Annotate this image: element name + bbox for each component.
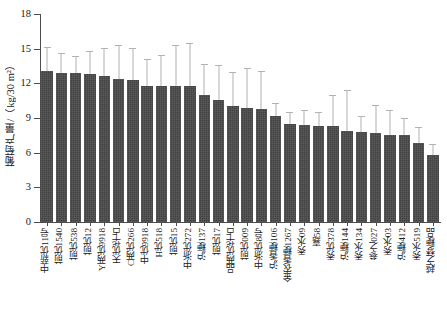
error-bar-cap — [158, 55, 165, 56]
error-bar-cap — [358, 116, 365, 117]
bar — [299, 125, 310, 222]
bar — [156, 86, 167, 222]
x-axis-tick-label: 品两优华占 — [227, 228, 241, 273]
error-bar-cap — [144, 59, 151, 60]
x-axis-tick-label: 参之027 — [370, 228, 384, 260]
y-axis-tick: 9 — [34, 118, 40, 119]
bar — [384, 135, 395, 222]
bar-group — [256, 14, 267, 222]
bar-group — [241, 14, 252, 222]
bar — [213, 100, 224, 222]
bar — [99, 76, 110, 222]
error-bar-cap — [386, 110, 393, 111]
bar-group — [113, 14, 124, 222]
x-axis-line — [40, 222, 441, 223]
bar-group — [313, 14, 324, 222]
x-axis-tick-label: 秀水03 — [384, 228, 398, 255]
error-bar-cap — [229, 72, 236, 73]
error-bar — [332, 96, 333, 126]
bar — [327, 126, 338, 222]
x-axis-tick — [247, 222, 248, 226]
error-bar — [261, 72, 262, 109]
x-axis-tick — [361, 222, 362, 226]
y-axis-title-text: 葡萄产量/（kg/30 m²） — [3, 59, 18, 166]
bar-group — [184, 14, 195, 222]
x-axis-tick-label: 前优12 — [84, 228, 98, 255]
error-bar-cap — [186, 43, 193, 44]
bar-group — [141, 14, 152, 222]
bar-group — [213, 14, 224, 222]
bar — [170, 86, 181, 222]
error-bar — [175, 46, 176, 85]
error-bar — [218, 66, 219, 100]
bar — [270, 116, 281, 222]
x-axis-tick-label: 秀水09 — [298, 228, 312, 255]
y-axis-tick: 12 — [34, 83, 40, 84]
y-axis-tick-label: 3 — [26, 180, 34, 193]
bar-group — [413, 14, 424, 222]
error-bar-cap — [44, 47, 51, 48]
error-bar-cap — [344, 90, 351, 91]
error-bar — [404, 119, 405, 135]
bar-group — [70, 14, 81, 222]
bar — [56, 73, 67, 222]
x-axis-tick — [390, 222, 391, 226]
bar-group — [370, 14, 381, 222]
bar — [141, 86, 152, 222]
x-axis-tick — [276, 222, 277, 226]
error-bar-cap — [301, 110, 308, 111]
x-axis-tick-label: 前优17 — [213, 228, 227, 255]
error-bar — [204, 65, 205, 95]
bar — [427, 155, 438, 222]
x-axis-tick — [219, 222, 220, 226]
x-axis-tick — [304, 222, 305, 226]
error-bar-cap — [115, 45, 122, 46]
bar — [127, 80, 138, 222]
x-axis-tick — [290, 222, 291, 226]
x-axis-tick — [147, 222, 148, 226]
x-axis-tick — [176, 222, 177, 226]
y-axis-tick: 0 — [34, 222, 40, 223]
bar-group — [56, 14, 67, 222]
bar — [256, 109, 267, 222]
bar — [341, 131, 352, 222]
error-bar-cap — [286, 112, 293, 113]
bar — [70, 73, 81, 222]
error-bar-cap — [86, 51, 93, 52]
y-axis-tick: 3 — [34, 187, 40, 188]
error-bar — [289, 113, 290, 123]
bar-group — [84, 14, 95, 222]
bar-group — [270, 14, 281, 222]
bar — [41, 71, 52, 222]
bar — [370, 133, 381, 222]
error-bar-cap — [258, 71, 265, 72]
error-bar — [118, 46, 119, 78]
y-axis-tick-label: 9 — [26, 111, 34, 124]
error-bar — [47, 48, 48, 71]
x-axis-tick-label: 中浙优272 — [184, 228, 198, 269]
error-bar-cap — [272, 103, 279, 104]
y-axis-tick-label: 6 — [26, 146, 34, 159]
x-axis-tick-label: 秀水134 — [355, 228, 369, 260]
y-axis-tick-label: 18 — [21, 7, 35, 20]
x-axis-tick-label: 沪粳412 — [398, 228, 412, 260]
x-axis-tick-label: 中浙优8号 — [255, 228, 269, 269]
bar — [284, 124, 295, 222]
error-bar — [418, 128, 419, 143]
y-axis-tick-label: 0 — [26, 215, 34, 228]
x-axis-tick-label: 天优华占 — [113, 228, 127, 264]
x-axis-tick-label: 嘉58 — [313, 228, 327, 246]
y-axis-title: 葡萄产量/（kg/30 m²） — [0, 0, 20, 224]
grape-yield-bar-chart: 葡萄产量/（kg/30 m²） 0369121518中薪优11号前优1540前优… — [0, 0, 447, 310]
bar-group — [384, 14, 395, 222]
error-bar — [304, 111, 305, 125]
error-bar — [375, 106, 376, 133]
error-bar — [389, 111, 390, 135]
x-axis-tick — [204, 222, 205, 226]
x-axis-tick — [333, 222, 334, 226]
bar-group — [327, 14, 338, 222]
x-axis-tick — [347, 222, 348, 226]
x-axis-tick — [404, 222, 405, 226]
error-bar-cap — [129, 48, 136, 49]
error-bar — [232, 73, 233, 107]
